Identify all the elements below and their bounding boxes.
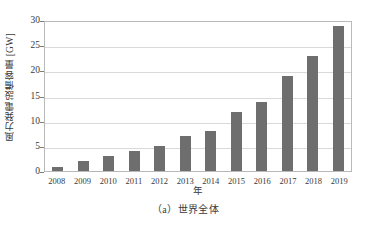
bar <box>256 102 267 171</box>
bar-slot <box>71 22 97 171</box>
bar-slot <box>122 22 148 171</box>
bar <box>180 136 191 171</box>
bar <box>231 112 242 171</box>
x-axis-tick-label: 2018 <box>301 174 327 188</box>
bar-slot <box>300 22 326 171</box>
bar <box>205 131 216 171</box>
bar <box>129 151 140 171</box>
plot-area <box>44 21 352 172</box>
bar-series <box>45 22 351 171</box>
bar <box>78 161 89 171</box>
x-axis-tick-label: 2016 <box>249 174 275 188</box>
y-axis-title: 風力発電設備容量 [GW] <box>0 0 22 175</box>
bar-slot <box>173 22 199 171</box>
bar-slot <box>198 22 224 171</box>
x-axis-tick-label: 2012 <box>147 174 173 188</box>
bar-slot <box>45 22 71 171</box>
bar-slot <box>147 22 173 171</box>
y-axis-tick-mark <box>40 172 44 173</box>
figure-caption: （a）世界全体 <box>0 205 371 215</box>
bar <box>52 167 63 171</box>
x-axis-tick-label: 2011 <box>121 174 147 188</box>
bar <box>103 156 114 171</box>
x-axis-tick-label: 2019 <box>326 174 352 188</box>
bar <box>307 56 318 171</box>
x-axis-tick-label: 2015 <box>224 174 250 188</box>
bar-slot <box>326 22 352 171</box>
x-axis-tick-label: 2017 <box>275 174 301 188</box>
figure: 風力発電設備容量 [GW] 051015202530 2008200920102… <box>0 0 371 225</box>
y-axis-title-label: 風力発電設備容量 [GW] <box>6 33 16 141</box>
bar <box>333 26 344 171</box>
bar-slot <box>96 22 122 171</box>
x-axis-tick-label: 2008 <box>44 174 70 188</box>
y-axis-tick-labels: 051015202530 <box>20 21 40 172</box>
bar-slot <box>224 22 250 171</box>
x-axis-tick-label: 2010 <box>95 174 121 188</box>
bar-slot <box>275 22 301 171</box>
bar <box>154 146 165 171</box>
x-axis-title: 年 <box>44 187 352 197</box>
bar-slot <box>249 22 275 171</box>
bar <box>282 76 293 171</box>
x-axis-tick-label: 2009 <box>70 174 96 188</box>
